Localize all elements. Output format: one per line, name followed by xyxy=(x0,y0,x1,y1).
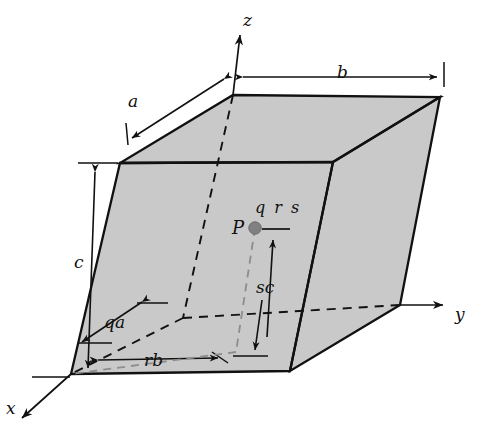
figure-canvas: z y x a b c qa rb sc P q r s xyxy=(0,0,487,441)
dimension-label-c: c xyxy=(74,254,84,271)
point-p-marker xyxy=(249,222,261,234)
point-label-p: P xyxy=(232,219,244,237)
axis-label-y: y xyxy=(455,306,465,323)
front-face xyxy=(71,162,333,374)
dimension-label-a: a xyxy=(128,93,138,110)
x-axis xyxy=(22,374,71,418)
dimension-a-tick xyxy=(126,123,128,145)
annotation-label-sc: sc xyxy=(256,279,274,296)
axis-label-z: z xyxy=(243,12,252,29)
coordinates-label-qrs: q r s xyxy=(255,200,301,216)
axis-label-x: x xyxy=(6,400,16,417)
z-axis xyxy=(233,35,240,95)
annotation-label-qa: qa xyxy=(104,314,125,331)
annotation-label-rb: rb xyxy=(144,352,163,369)
dimension-label-b: b xyxy=(337,64,348,81)
